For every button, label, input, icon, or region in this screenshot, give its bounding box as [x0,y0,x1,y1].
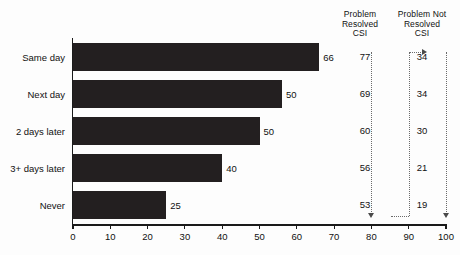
x-axis-tick-label: 0 [70,231,75,242]
bar[interactable] [73,117,260,145]
csi-value-problem-resolved: 60 [352,125,378,136]
guide-line-80 [371,52,372,216]
bar-row: 50Next day [73,80,446,108]
x-axis-tick-label: 20 [142,231,153,242]
category-label: Next day [28,88,66,99]
csi-value-problem-resolved: 77 [352,51,378,62]
guide-line-90 [409,52,410,216]
csi-value-problem-resolved: 56 [352,162,378,173]
csi-value-problem-not-resolved: 34 [409,88,435,99]
arrow-right-icon [422,49,427,55]
bar-value-label: 50 [260,126,275,137]
x-axis-tick [334,224,335,229]
csi-value-problem-resolved: 69 [352,88,378,99]
x-axis-tick [371,224,372,229]
guide-line-100 [446,52,447,216]
column-header-line-3: CSI [332,29,388,39]
category-label: Same day [22,51,65,62]
chart-figure: Problem Resolved CSI Problem Not Resolve… [0,0,460,255]
bar[interactable] [73,43,319,71]
csi-value-problem-not-resolved: 21 [409,162,435,173]
x-axis-tick-label: 90 [403,231,414,242]
x-axis-tick-label: 100 [438,231,454,242]
bar-value-label: 25 [166,200,181,211]
column-header-line-3: CSI [389,29,455,39]
csi-value-problem-not-resolved: 30 [409,125,435,136]
x-axis-tick [296,224,297,229]
x-axis-tick [72,224,73,229]
guide-stub-bottom [391,216,409,217]
x-axis-tick [110,224,111,229]
x-axis-tick [147,224,148,229]
arrow-down-icon [368,213,374,218]
x-axis-tick-label: 60 [292,231,303,242]
x-axis-tick [184,224,185,229]
x-axis-tick-label: 30 [180,231,191,242]
bar-row: 66Same day [73,43,446,71]
bar-value-label: 40 [222,163,237,174]
category-label: Never [40,200,65,211]
bar[interactable] [73,80,282,108]
csi-value-problem-resolved: 53 [352,199,378,210]
category-label: 3+ days later [10,163,65,174]
arrow-down-icon [443,213,449,218]
csi-value-problem-not-resolved: 19 [409,199,435,210]
bar[interactable] [73,154,222,182]
bar-row: 502 days later [73,117,446,145]
x-axis-tick-label: 80 [366,231,377,242]
bar-value-label: 66 [319,51,334,62]
bar-value-label: 50 [282,88,297,99]
x-axis-tick-label: 70 [329,231,340,242]
category-label: 2 days later [16,126,65,137]
column-header-problem-not-resolved-csi: Problem Not Resolved CSI [389,10,455,39]
x-axis-tick-label: 40 [217,231,228,242]
bar[interactable] [73,191,166,219]
x-axis-tick-label: 50 [254,231,265,242]
guide-stub-top [409,52,423,53]
x-axis-tick [408,224,409,229]
x-axis-tick [259,224,260,229]
bar-row: 403+ days later [73,154,446,182]
x-axis-tick-label: 10 [105,231,116,242]
x-axis-tick [222,224,223,229]
x-axis-tick [445,224,446,229]
column-header-problem-resolved-csi: Problem Resolved CSI [332,10,388,39]
